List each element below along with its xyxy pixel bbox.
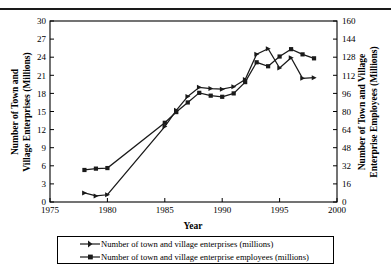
data-point-marker bbox=[266, 46, 271, 51]
data-point-marker bbox=[82, 168, 86, 172]
data-point-marker bbox=[289, 55, 294, 60]
svg-text:64: 64 bbox=[342, 125, 352, 135]
left-axis-title-line2: Village Enterprises (Millions) bbox=[22, 52, 33, 171]
svg-text:160: 160 bbox=[342, 16, 356, 26]
data-point-marker bbox=[289, 47, 293, 51]
data-point-marker bbox=[209, 94, 213, 98]
svg-text:15: 15 bbox=[37, 107, 47, 117]
data-point-marker bbox=[300, 52, 304, 56]
svg-text:128: 128 bbox=[342, 52, 356, 62]
data-point-marker bbox=[220, 87, 225, 92]
triangle-line-marker-icon bbox=[80, 239, 100, 249]
svg-text:16: 16 bbox=[342, 179, 352, 189]
data-point-marker bbox=[300, 76, 305, 81]
data-point-marker bbox=[312, 75, 317, 80]
x-axis-title: Year bbox=[184, 221, 204, 231]
left-axis-title-line1: Number of Town and bbox=[10, 68, 20, 155]
legend-label-employees: Number of town and village enterprise em… bbox=[101, 252, 309, 262]
series-line-0 bbox=[84, 49, 314, 196]
chart-legend: Number of town and village enterprises (… bbox=[57, 236, 334, 264]
left-axis-ticks: 036912151821242730 bbox=[37, 16, 54, 207]
data-point-marker bbox=[197, 91, 201, 95]
svg-text:1995: 1995 bbox=[271, 205, 290, 215]
top-divider-rule bbox=[0, 8, 391, 10]
svg-text:30: 30 bbox=[37, 16, 47, 26]
legend-item-enterprises: Number of town and village enterprises (… bbox=[58, 237, 333, 250]
plot-frame bbox=[50, 21, 337, 202]
data-point-marker bbox=[94, 193, 99, 198]
data-point-marker bbox=[312, 56, 316, 60]
data-point-marker bbox=[94, 167, 98, 171]
svg-text:80: 80 bbox=[342, 107, 352, 117]
data-point-marker bbox=[255, 60, 259, 64]
svg-text:3: 3 bbox=[42, 179, 47, 189]
svg-text:144: 144 bbox=[342, 34, 356, 44]
svg-text:32: 32 bbox=[342, 161, 351, 171]
data-point-marker bbox=[174, 110, 178, 114]
data-point-marker bbox=[105, 166, 109, 170]
svg-text:48: 48 bbox=[342, 143, 352, 153]
svg-text:27: 27 bbox=[37, 34, 47, 44]
data-series-layer bbox=[82, 46, 317, 198]
data-point-marker bbox=[243, 80, 247, 84]
svg-text:96: 96 bbox=[342, 89, 352, 99]
data-point-marker bbox=[208, 86, 213, 91]
data-point-marker bbox=[82, 190, 87, 195]
square-line-marker-icon bbox=[80, 252, 100, 262]
svg-text:2000: 2000 bbox=[328, 205, 347, 215]
x-axis-ticks: 197519801985199019952000 bbox=[41, 198, 347, 215]
svg-text:1980: 1980 bbox=[98, 205, 117, 215]
svg-text:21: 21 bbox=[37, 71, 46, 81]
data-point-marker bbox=[254, 52, 259, 57]
svg-text:1985: 1985 bbox=[156, 205, 175, 215]
data-point-marker bbox=[163, 121, 167, 125]
right-axis-title-line2: Enterprise Employees (Millions) bbox=[369, 46, 380, 177]
svg-text:18: 18 bbox=[37, 89, 47, 99]
chart-plot-area: 036912151821242730 016324864809611212814… bbox=[0, 0, 391, 236]
data-point-marker bbox=[266, 64, 270, 68]
data-point-marker bbox=[278, 54, 282, 58]
data-point-marker bbox=[186, 100, 190, 104]
legend-label-enterprises: Number of town and village enterprises (… bbox=[101, 239, 273, 249]
svg-text:6: 6 bbox=[42, 161, 47, 171]
svg-text:24: 24 bbox=[37, 52, 47, 62]
svg-text:9: 9 bbox=[42, 143, 47, 153]
svg-text:1975: 1975 bbox=[41, 205, 60, 215]
svg-text:12: 12 bbox=[37, 125, 46, 135]
legend-item-employees: Number of town and village enterprise em… bbox=[58, 250, 333, 263]
svg-text:1990: 1990 bbox=[213, 205, 232, 215]
svg-text:112: 112 bbox=[342, 71, 355, 81]
data-point-marker bbox=[232, 91, 236, 95]
chart-figure: 036912151821242730 016324864809611212814… bbox=[0, 0, 391, 268]
data-point-marker bbox=[220, 95, 224, 99]
data-point-marker bbox=[197, 85, 202, 90]
right-axis-title-line1: Number of Town and Village bbox=[357, 54, 367, 171]
